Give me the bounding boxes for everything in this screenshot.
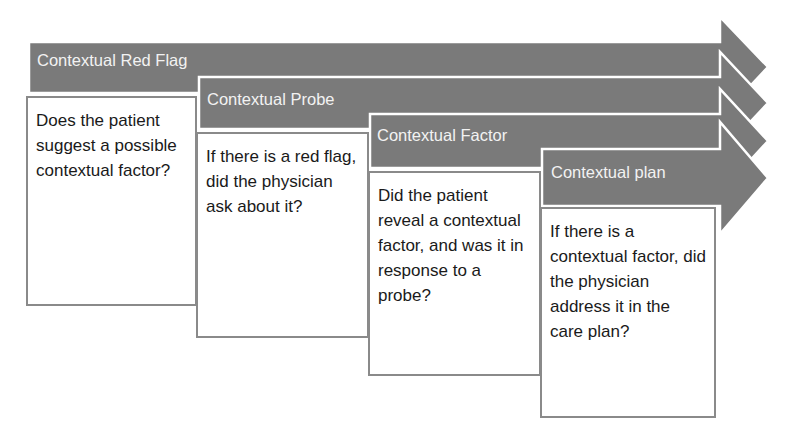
step-1-title: Contextual Red Flag <box>37 51 187 70</box>
step-3-card: Did the patient reveal a contextual fact… <box>368 171 541 376</box>
step-2-card: If there is a red flag, did the physicia… <box>196 132 369 338</box>
step-1-card: Does the patient suggest a possible cont… <box>26 96 197 306</box>
step-3-question: Did the patient reveal a contextual fact… <box>378 186 524 305</box>
step-4-title: Contextual plan <box>551 163 666 182</box>
step-4-question: If there is a contextual factor, did the… <box>550 222 706 341</box>
step-2-question: If there is a red flag, did the physicia… <box>206 147 356 216</box>
step-2-title: Contextual Probe <box>207 90 335 109</box>
step-3-title: Contextual Factor <box>377 126 507 145</box>
step-4-card: If there is a contextual factor, did the… <box>540 207 716 418</box>
step-1-question: Does the patient suggest a possible cont… <box>36 111 177 180</box>
